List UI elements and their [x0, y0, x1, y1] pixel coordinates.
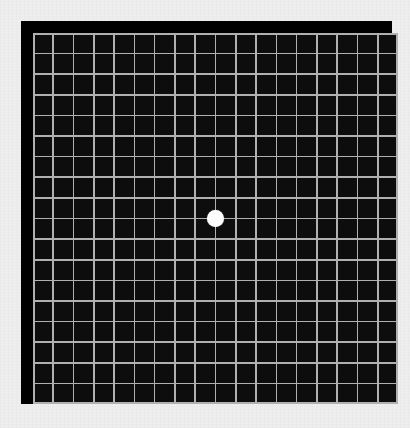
fixation-dot — [207, 210, 224, 227]
amsler-grid-panel — [21, 21, 392, 404]
amsler-grid-field — [33, 33, 398, 404]
